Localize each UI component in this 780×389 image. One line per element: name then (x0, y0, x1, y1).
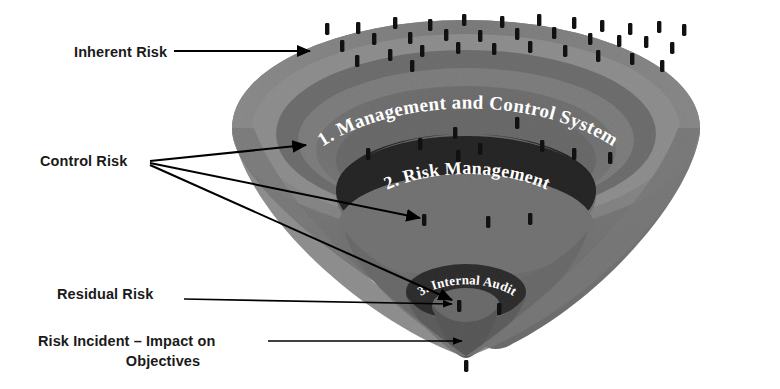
risk-event-tick (428, 19, 432, 31)
risk-event-tick (478, 143, 482, 155)
risk-event-tick (563, 45, 567, 57)
risk-event-tick (552, 27, 556, 39)
risk-event-tick (596, 50, 600, 62)
risk-event-tick (408, 32, 412, 44)
risk-event-tick (600, 20, 604, 32)
risk-event-tick (515, 117, 519, 129)
risk-incident-tick (464, 360, 468, 372)
risk-event-tick (456, 42, 460, 54)
risk-event-tick (486, 216, 490, 228)
risk-event-tick (492, 43, 496, 55)
risk-event-tick (462, 14, 466, 26)
risk-event-tick (393, 17, 397, 29)
risk-event-tick (372, 33, 376, 45)
risk-event-tick (325, 23, 329, 35)
risk-event-tick (628, 23, 632, 35)
callout-label-risk-incident-line2: Objectives (38, 352, 288, 372)
risk-event-tick (630, 53, 634, 65)
risk-funnel-diagram: 1. Management and Control System 2. Risk… (0, 0, 780, 389)
risk-event-tick (340, 40, 344, 52)
risk-event-tick (528, 41, 532, 53)
callout-label-residual-risk: Residual Risk (57, 285, 153, 305)
risk-event-tick (356, 22, 360, 34)
risk-event-tick (420, 45, 424, 57)
risk-event-tick (660, 60, 664, 72)
risk-event-tick (444, 29, 448, 41)
callout-label-risk-incident: Risk Incident – Impact on Objectives (38, 332, 288, 371)
risk-event-tick (540, 140, 544, 152)
callout-label-inherent-risk: Inherent Risk (74, 43, 167, 63)
risk-event-tick (410, 60, 414, 72)
risk-event-tick (682, 24, 686, 36)
risk-event-tick (528, 213, 532, 225)
risk-event-tick (457, 300, 461, 312)
risk-event-tick (388, 49, 392, 61)
risk-event-tick (515, 28, 519, 40)
risk-event-tick (537, 14, 541, 26)
risk-event-tick (453, 127, 457, 139)
risk-event-tick (497, 303, 501, 315)
risk-event-tick (478, 30, 482, 42)
risk-event-tick (644, 36, 648, 48)
risk-event-tick (588, 33, 592, 45)
risk-event-tick (422, 214, 426, 226)
risk-event-tick (657, 21, 661, 33)
risk-event-tick (456, 150, 460, 162)
risk-event-tick (572, 17, 576, 29)
risk-event-tick (366, 148, 370, 160)
risk-event-tick (572, 148, 576, 160)
risk-event-tick (617, 35, 621, 47)
risk-event-tick (355, 55, 359, 67)
risk-event-tick (418, 138, 422, 150)
callout-label-control-risk: Control Risk (40, 152, 127, 172)
risk-event-tick (608, 152, 612, 164)
cone-body (232, 20, 700, 358)
callout-label-risk-incident-line1: Risk Incident – Impact on (38, 332, 288, 352)
risk-event-tick (500, 16, 504, 28)
risk-event-tick (670, 42, 674, 54)
